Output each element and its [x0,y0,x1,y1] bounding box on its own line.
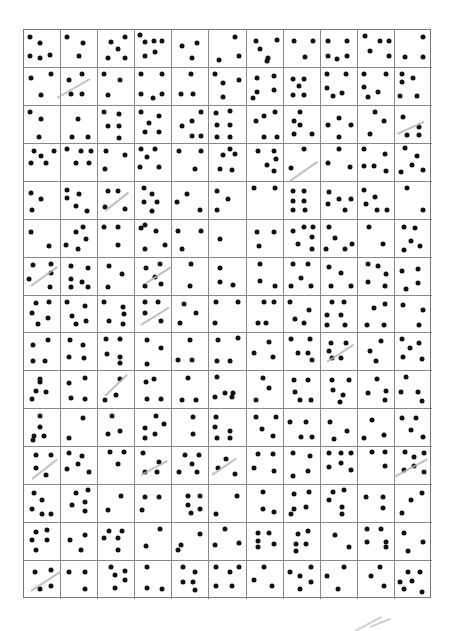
dot [189,71,194,76]
dot [45,528,50,533]
dot [297,574,302,579]
dot [144,544,149,549]
dot [402,54,407,59]
dot [332,533,337,538]
dot [288,337,293,342]
dot [70,503,75,508]
dot [181,565,186,570]
dot [217,57,222,62]
dot [118,361,123,366]
dot [107,263,112,268]
dot [401,224,406,229]
dot [325,160,330,165]
dot-cell [135,561,172,599]
dot [154,414,159,419]
dot [36,322,41,327]
dot [44,390,49,395]
dot-cell [247,371,284,409]
dot [197,453,202,458]
dot-cell [209,561,246,599]
dot [116,224,121,229]
dot [191,91,196,96]
dot [365,391,370,396]
dot [296,83,301,88]
dot [218,279,223,284]
dot-grid [23,29,431,598]
dot [380,241,385,246]
dot [338,451,343,456]
dot [185,191,190,196]
dot-cell [247,296,284,334]
dot [255,321,260,326]
dot [157,129,162,134]
dot [157,113,162,118]
dot [340,393,345,398]
dot [346,378,351,383]
dot [374,377,379,382]
dot [145,397,150,402]
dot [107,319,112,324]
dot [297,109,302,114]
dot [67,381,72,386]
dot-cell [321,220,358,258]
dot-cell [209,182,246,220]
dot [180,246,185,251]
dot [271,542,276,547]
dot [122,312,127,317]
dot [371,305,376,310]
dot [221,80,226,85]
dot-cell [321,182,358,220]
dot [372,194,377,199]
dot [143,436,148,441]
dot-cell [172,258,209,296]
dot [361,163,366,168]
dot [189,261,194,266]
dot [30,538,35,543]
dot [272,185,277,190]
dot [179,91,184,96]
dot [143,311,148,316]
dot [52,148,57,153]
dot [290,76,295,81]
dot [103,166,108,171]
dot [190,133,195,138]
dot-cell [321,371,358,409]
dot [251,466,256,471]
dot [305,469,310,474]
dot-cell [247,220,284,258]
dot [151,95,156,100]
dot [28,109,33,114]
dot [175,199,180,204]
dot [292,317,297,322]
dot [324,71,329,76]
dot [213,543,218,548]
dot-cell [61,30,98,68]
dot [290,451,295,456]
dot-cell [321,30,358,68]
dot [68,538,73,543]
dot-cell [61,220,98,258]
dot [40,512,45,517]
dot [109,565,114,570]
dot [364,527,369,532]
dot [381,433,386,438]
dot [195,470,200,475]
dot [33,570,38,575]
dot-cell [358,485,395,523]
dot [176,548,181,553]
dot-cell [321,106,358,144]
dot [407,346,412,351]
dot [155,470,160,475]
dot [367,349,372,354]
dot [79,148,84,153]
dot-cell [61,371,98,409]
dot [155,199,160,204]
dot [74,203,79,208]
dot [401,587,406,592]
dot-cell [135,485,172,523]
dot [108,450,113,455]
dot-cell [321,296,358,334]
dot [31,359,36,364]
dot-cell [209,523,246,561]
dot [32,148,37,153]
